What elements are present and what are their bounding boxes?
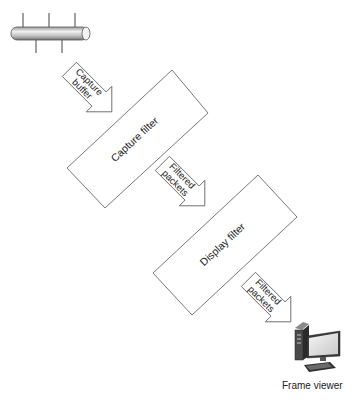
network-cable-icon [11,13,90,53]
frame-viewer-label: Frame viewer [282,380,343,391]
filtered-packets-arrow-2: Filtered packets [236,267,304,335]
computer-icon [295,322,340,372]
capture-buffer-arrow: Capture buffer [57,57,125,125]
filtered-packets-arrow-1: Filtered packets [150,151,218,219]
